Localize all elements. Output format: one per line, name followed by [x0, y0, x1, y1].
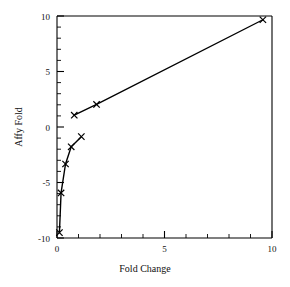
y-tick-label: -5 [43, 178, 51, 188]
y-tick-label: 10 [41, 12, 51, 22]
fold-change-scatter-line-chart: 10 5 0 -5 -10 0 5 10 Fold Change Affy Fo… [0, 0, 290, 287]
y-axis-title: Affy Fold [13, 107, 24, 147]
y-tick-label: 0 [46, 123, 51, 133]
y-tick-label: -10 [38, 234, 50, 244]
x-axis-title: Fold Change [119, 263, 171, 274]
x-tick-label: 5 [162, 244, 167, 254]
chart-figure: 10 5 0 -5 -10 0 5 10 Fold Change Affy Fo… [0, 0, 290, 287]
x-tick-label: 0 [55, 244, 60, 254]
y-tick-label: 5 [46, 67, 51, 77]
x-tick-label: 10 [268, 244, 278, 254]
chart-background [0, 0, 290, 287]
